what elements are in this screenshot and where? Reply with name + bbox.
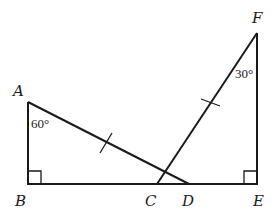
geometry-diagram: A B C D E F 60° 30° (0, 0, 277, 214)
segment-cf (157, 33, 257, 184)
point-label-a: A (11, 82, 24, 100)
right-angle-marker-b (28, 171, 41, 184)
point-label-f: F (251, 9, 263, 27)
point-label-c: C (145, 192, 157, 210)
angle-label-f: 30° (235, 66, 253, 81)
point-label-b: B (14, 192, 26, 210)
right-angle-marker-e (244, 171, 257, 184)
point-label-d: D (181, 192, 194, 210)
point-label-e: E (252, 192, 264, 210)
angle-label-a: 60° (31, 116, 49, 131)
